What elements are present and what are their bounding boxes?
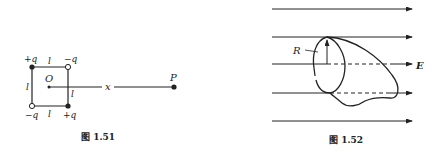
- disc-back-edge: [327, 37, 345, 93]
- label-distance-x: x: [105, 81, 111, 92]
- closed-surface: [327, 37, 398, 106]
- charge-negative-top-right: [65, 64, 70, 69]
- figure-1-51: +q −q −q +q l l l l O x P 图 1.51: [24, 54, 177, 142]
- label-point-p: P: [169, 72, 177, 83]
- label-top-left-charge: +q: [24, 54, 38, 64]
- origin-point: [48, 86, 51, 89]
- disc-edge-gap: [314, 68, 315, 76]
- label-radius-r: R: [292, 45, 301, 56]
- label-side-top: l: [48, 56, 51, 66]
- label-bottom-left-charge: −q: [25, 110, 39, 120]
- label-top-right-charge: −q: [64, 54, 78, 64]
- label-side-right: l: [71, 89, 74, 99]
- label-origin: O: [45, 73, 53, 84]
- charge-positive-bottom-right: [65, 103, 70, 108]
- label-bottom-right-charge: +q: [63, 110, 77, 120]
- figure-1-52: R E 图 1.52: [272, 9, 424, 145]
- caption-figure-1-52: 图 1.52: [329, 135, 363, 145]
- point-p: [171, 84, 176, 89]
- diagram-canvas: +q −q −q +q l l l l O x P 图 1.51: [0, 0, 442, 152]
- disc-front-edge: [313, 37, 330, 93]
- label-field-e: E: [415, 60, 424, 71]
- label-side-bottom: l: [48, 109, 51, 119]
- label-side-left: l: [26, 82, 29, 92]
- caption-figure-1-51: 图 1.51: [81, 132, 115, 142]
- charge-negative-bottom-left: [29, 103, 34, 108]
- charge-positive-top-left: [29, 64, 34, 69]
- radius-leader-line: [305, 50, 318, 52]
